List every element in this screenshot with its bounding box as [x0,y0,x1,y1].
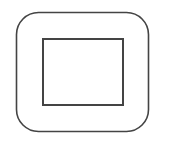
stop-icon [0,0,176,151]
outer-rounded-frame [17,13,149,132]
inner-square [43,39,123,105]
